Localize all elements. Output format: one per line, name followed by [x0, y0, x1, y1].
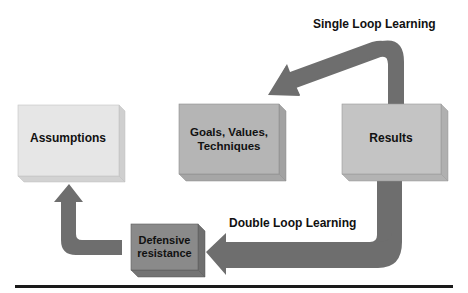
- single-loop-label: Single Loop Learning: [313, 17, 436, 31]
- goals-values-techniques-box: Goals, Values, Techniques: [179, 104, 286, 181]
- assumptions-box: Assumptions: [18, 105, 125, 182]
- single-loop-arrow: [268, 41, 404, 106]
- bottom-divider: [15, 285, 453, 288]
- loop-learning-diagram: Assumptions Goals, Values, Techniques Re…: [0, 0, 468, 293]
- defensive-label-line2: resistance: [137, 247, 191, 259]
- assumptions-label: Assumptions: [30, 131, 106, 145]
- results-box: Results: [342, 104, 448, 181]
- goals-label-line1: Goals, Values,: [190, 126, 268, 138]
- results-label: Results: [369, 131, 413, 145]
- double-loop-label: Double Loop Learning: [229, 216, 356, 230]
- resistance-to-assumptions-arrow: [54, 184, 122, 255]
- defensive-resistance-box: Defensive resistance: [131, 224, 205, 277]
- goals-label-line2: Techniques: [197, 140, 260, 152]
- defensive-label-line1: Defensive: [139, 234, 191, 246]
